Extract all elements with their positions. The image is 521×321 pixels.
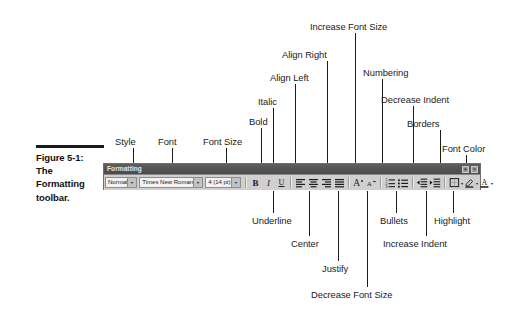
font-combo-value: Times New Roman xyxy=(140,178,193,187)
caption-line-3: Formatting xyxy=(36,177,102,190)
chevron-down-icon[interactable]: ▾ xyxy=(127,178,136,187)
callout-justify: Justify xyxy=(322,264,348,274)
callout-font: Font xyxy=(158,137,177,147)
style-combo[interactable]: Normal ▾ xyxy=(105,177,137,188)
callout-decrease-indent: Decrease Indent xyxy=(381,95,449,105)
formatting-toolbar-window[interactable]: Formatting ▾ × Normal ▾ Times New Roman … xyxy=(103,163,481,190)
callout-align-left: Align Left xyxy=(270,73,309,83)
chevron-down-icon[interactable]: ▾ xyxy=(231,178,240,187)
callout-font-size: Font Size xyxy=(203,137,242,147)
figure-caption: Figure 5-1: The Formatting toolbar. xyxy=(36,151,102,204)
toolbar-titlebar[interactable]: Formatting ▾ × xyxy=(104,164,480,175)
font-color-icon[interactable]: A xyxy=(478,176,491,189)
callout-increase-font-size: Increase Font Size xyxy=(310,22,387,32)
caption-line-4: toolbar. xyxy=(36,191,102,204)
caption-line-2: The xyxy=(36,164,102,177)
toolbar-separator xyxy=(348,177,350,188)
caption-line-1: Figure 5-1: xyxy=(36,151,102,164)
highlight-icon[interactable] xyxy=(463,176,476,189)
svg-text:U: U xyxy=(278,178,284,187)
justify-icon[interactable] xyxy=(333,176,346,189)
increase-font-size-icon[interactable]: A xyxy=(352,176,365,189)
caption-rule xyxy=(36,145,104,148)
callout-underline: Underline xyxy=(252,216,292,226)
svg-text:A: A xyxy=(353,178,360,188)
toolbar-title: Formatting xyxy=(104,165,142,173)
style-combo-value: Normal xyxy=(106,178,127,187)
callout-font-color: Font Color xyxy=(442,144,485,154)
toolbar-separator xyxy=(380,177,382,188)
align-left-icon[interactable] xyxy=(294,176,307,189)
decrease-font-size-icon[interactable]: A xyxy=(365,176,378,189)
toolbar-options-button[interactable]: ▾ xyxy=(462,166,469,173)
callout-align-right: Align Right xyxy=(282,50,327,60)
toolbar-close-button[interactable]: × xyxy=(471,166,478,173)
leader-increase-indent xyxy=(426,191,427,236)
callout-numbering: Numbering xyxy=(363,68,408,78)
leader-align-left xyxy=(295,84,296,173)
callout-style: Style xyxy=(115,137,136,147)
font-size-combo[interactable]: 4 (14 pt) ▾ xyxy=(205,177,240,188)
chevron-down-icon[interactable]: ▾ xyxy=(193,178,202,187)
bold-icon[interactable]: B xyxy=(249,176,262,189)
callout-bold: Bold xyxy=(249,117,268,127)
font-size-combo-value: 4 (14 pt) xyxy=(206,178,230,187)
svg-text:A: A xyxy=(367,180,372,188)
toolbar-body: Normal ▾ Times New Roman ▾ 4 (14 pt) ▾ B… xyxy=(104,175,480,190)
leader-bullets xyxy=(396,191,397,213)
font-color-dropdown-arrow-icon[interactable]: ▾ xyxy=(491,176,493,189)
titlebar-buttons: ▾ × xyxy=(462,166,478,173)
callout-increase-indent: Increase Indent xyxy=(383,239,447,249)
callout-highlight: Highlight xyxy=(434,216,470,226)
toolbar-separator xyxy=(412,177,414,188)
svg-text:B: B xyxy=(252,178,258,188)
callout-bullets: Bullets xyxy=(380,216,408,226)
borders-icon[interactable] xyxy=(448,176,461,189)
svg-text:A: A xyxy=(481,178,487,187)
font-combo[interactable]: Times New Roman ▾ xyxy=(139,177,203,188)
callout-italic: Italic xyxy=(258,97,277,107)
increase-indent-icon[interactable] xyxy=(429,176,442,189)
align-right-icon[interactable] xyxy=(320,176,333,189)
callout-borders: Borders xyxy=(407,119,439,129)
leader-justify xyxy=(338,191,339,261)
toolbar-separator xyxy=(245,177,247,188)
svg-text:I: I xyxy=(266,178,271,188)
toolbar-separator xyxy=(290,177,292,188)
decrease-indent-icon[interactable] xyxy=(416,176,429,189)
leader-decrease-font-size xyxy=(367,191,368,287)
leader-highlight xyxy=(453,191,454,213)
toolbar-separator xyxy=(444,177,446,188)
italic-icon[interactable]: I xyxy=(262,176,275,189)
leader-increase-font-size xyxy=(355,33,356,173)
leader-underline xyxy=(273,191,274,213)
bullets-icon[interactable] xyxy=(397,176,410,189)
figure-page: Figure 5-1: The Formatting toolbar. Styl… xyxy=(0,0,521,321)
svg-text:3: 3 xyxy=(386,185,388,188)
callout-center: Center xyxy=(291,239,319,249)
leader-align-right xyxy=(327,61,328,173)
align-center-icon[interactable] xyxy=(307,176,320,189)
callout-decrease-font-size: Decrease Font Size xyxy=(311,290,392,300)
leader-center xyxy=(309,191,310,236)
numbering-icon[interactable]: 1 2 3 xyxy=(384,176,397,189)
underline-icon[interactable]: U xyxy=(275,176,288,189)
